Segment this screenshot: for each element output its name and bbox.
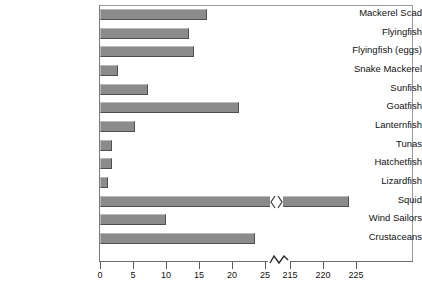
x-tick	[232, 262, 233, 269]
x-tick-label: 215	[282, 270, 297, 280]
bar	[100, 140, 112, 153]
x-tick	[323, 262, 324, 269]
x-tick	[290, 262, 291, 269]
bar	[100, 158, 112, 171]
bar-chart: Mackerel ScadFlyingfishFlyingfish (eggs)…	[0, 0, 422, 292]
category-label: Tunas	[334, 139, 422, 149]
x-tick	[100, 262, 101, 269]
x-tick	[166, 262, 167, 269]
x-tick-label: 10	[161, 270, 171, 280]
bar-body	[100, 121, 135, 132]
category-label: Goatfish	[334, 101, 422, 111]
bar	[100, 9, 207, 22]
category-label: Lanternfish	[334, 120, 422, 130]
category-label: Lizardfish	[334, 176, 422, 186]
x-tick-label: 25	[260, 270, 270, 280]
bar	[100, 28, 189, 41]
category-label: Wind Sailors	[334, 213, 422, 223]
bar	[100, 102, 239, 115]
bar-body	[100, 196, 349, 207]
plot-frame-top	[100, 5, 413, 6]
bar-break-marker	[270, 196, 283, 209]
bar	[100, 177, 108, 190]
bar	[100, 46, 194, 59]
bar	[100, 196, 349, 209]
x-tick-label: 5	[130, 270, 135, 280]
category-label: Hatchetfish	[334, 157, 422, 167]
category-label: Flyingfish (eggs)	[334, 45, 422, 55]
category-label: Sunfish	[334, 83, 422, 93]
bar-body	[100, 233, 255, 244]
x-axis-line	[100, 261, 413, 262]
x-tick-label: 220	[315, 270, 330, 280]
x-tick-label: 20	[227, 270, 237, 280]
bar-body	[100, 177, 108, 188]
category-label: Crustaceans	[334, 232, 422, 242]
category-label: Mackerel Scad	[334, 8, 422, 18]
bar-body	[100, 9, 207, 20]
bar-body	[100, 65, 118, 76]
bar-body	[100, 28, 189, 39]
bar	[100, 214, 166, 227]
x-axis-break-marker	[268, 252, 290, 266]
bar-body	[100, 140, 112, 151]
x-tick	[265, 262, 266, 269]
bar-body	[100, 158, 112, 169]
x-tick	[199, 262, 200, 269]
x-tick	[133, 262, 134, 269]
x-tick-label: 15	[194, 270, 204, 280]
category-label: Snake Mackerel	[334, 64, 422, 74]
bar	[100, 84, 148, 97]
bar	[100, 65, 118, 78]
x-tick	[356, 262, 357, 269]
bar	[100, 233, 255, 246]
bar-body	[100, 46, 194, 57]
bar	[100, 121, 135, 134]
x-tick-label: 225	[348, 270, 363, 280]
category-label: Flyingfish	[334, 27, 422, 37]
bar-body	[100, 214, 166, 225]
x-tick-label: 0	[97, 270, 102, 280]
bar-body	[100, 102, 239, 113]
bar-body	[100, 84, 148, 95]
